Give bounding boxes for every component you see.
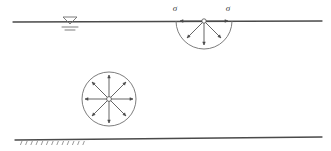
lower-boundary-line <box>15 137 322 140</box>
arrow-up <box>108 75 111 99</box>
arrow-lower-left-shaft <box>92 99 109 116</box>
semicircle-center-hub <box>202 19 206 23</box>
hatch-tick-5 <box>41 141 43 145</box>
arrow-lower-right-shaft <box>204 21 221 38</box>
hatch-tick-13 <box>83 141 85 145</box>
lower-boundary-group <box>15 137 322 145</box>
hatch-tick-8 <box>57 141 59 145</box>
ground-surface-line <box>13 21 322 22</box>
hatch-tick-4 <box>36 141 38 145</box>
arrow-right-head <box>225 20 228 23</box>
arrow-lower-right <box>204 21 221 38</box>
arrow-lower-left <box>187 21 204 38</box>
arrow-down-head <box>203 42 206 45</box>
arrow-upper-right-shaft <box>109 82 126 99</box>
diagram-svg: σ σ <box>0 0 331 151</box>
hatch-tick-6 <box>46 141 48 145</box>
arrow-upper-right <box>109 82 126 99</box>
arrow-lower-right <box>109 99 126 116</box>
arrow-upper-left <box>92 82 109 99</box>
lower-boundary-hatch-group <box>20 141 84 145</box>
arrow-down <box>203 21 206 45</box>
buried-rosette-group <box>82 72 136 126</box>
arrow-upper-left-shaft <box>92 82 109 99</box>
hatch-tick-11 <box>72 141 74 145</box>
sigma-label-right: σ <box>226 3 231 13</box>
hatch-tick-12 <box>78 141 80 145</box>
figure-canvas: σ σ <box>0 0 331 151</box>
arrow-lower-left <box>92 99 109 116</box>
arrow-lower-left-shaft <box>187 21 204 38</box>
arrow-down-head <box>108 120 111 123</box>
arrow-right <box>109 98 133 101</box>
rosette-center-hub <box>107 97 112 102</box>
hatch-tick-2 <box>26 141 28 145</box>
surface-rosette-group: σ σ <box>173 3 232 49</box>
arrow-up-head <box>108 75 111 78</box>
hatch-tick-1 <box>20 141 22 145</box>
arrow-down <box>108 99 111 123</box>
ground-surface-group <box>13 21 322 22</box>
arrow-lower-right-shaft <box>109 99 126 116</box>
hatch-tick-7 <box>52 141 54 145</box>
water-table-triangle <box>63 17 77 24</box>
water-table-group <box>62 17 78 30</box>
arrow-left-head <box>85 98 88 101</box>
water-table-dash-group <box>62 27 78 30</box>
arrow-right-head <box>130 98 133 101</box>
arrow-left <box>85 98 109 101</box>
hatch-tick-9 <box>62 141 64 145</box>
sigma-label-left: σ <box>173 3 178 13</box>
hatch-tick-10 <box>67 141 69 145</box>
hatch-tick-3 <box>31 141 33 145</box>
